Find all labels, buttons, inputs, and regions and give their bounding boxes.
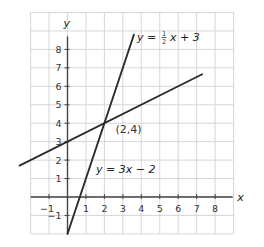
graph-canvas: xy −112345678−112345678 y = 12x + 3y = 3… [0, 0, 264, 247]
x-tick-label: 3 [120, 203, 126, 214]
y-tick-label: 5 [55, 99, 61, 110]
x-tick-label: 7 [194, 203, 200, 214]
equation-label-1-lhs: y = [136, 31, 156, 44]
y-tick-label: 1 [55, 173, 61, 184]
x-tick-label: 1 [83, 203, 89, 214]
y-tick-label: 7 [55, 62, 61, 73]
fraction-denominator: 2 [162, 38, 166, 46]
x-tick-label: 2 [101, 203, 107, 214]
intersection-point-label: (2,4) [115, 123, 141, 136]
y-tick-label: −1 [47, 210, 61, 221]
equation-label-2: y = 3x − 2 [95, 163, 155, 176]
y-tick-label: 2 [55, 155, 61, 166]
x-tick-label: 8 [212, 203, 218, 214]
series-line [20, 74, 203, 165]
y-tick-label: 4 [55, 118, 61, 129]
fraction-numerator: 1 [162, 30, 166, 38]
y-tick-label: 6 [55, 81, 61, 92]
y-axis-label: y [63, 17, 71, 30]
x-tick-label: 4 [138, 203, 144, 214]
x-tick-label: 6 [175, 203, 181, 214]
y-tick-label: 8 [55, 44, 61, 55]
x-axis-label: x [236, 191, 244, 204]
x-tick-label: 5 [157, 203, 163, 214]
equation-label-1-rhs: x + 3 [169, 31, 200, 44]
